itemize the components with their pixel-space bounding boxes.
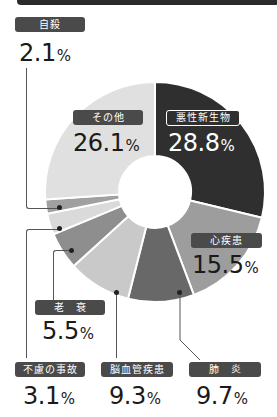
- leader-dot-pneumonia: [177, 290, 182, 295]
- label-pneumonia-tag: 肺 炎: [189, 362, 261, 377]
- label-pneumonia-value: 9.7%: [196, 383, 247, 412]
- leader-line-pneumonia: [0, 0, 277, 417]
